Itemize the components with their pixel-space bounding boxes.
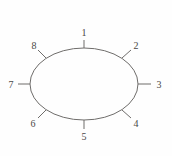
- node-label-4: 4: [134, 119, 139, 129]
- tick-mark-6: [38, 110, 46, 118]
- node-label-3: 3: [157, 80, 162, 90]
- figure-canvas: 1 2 3 4 5 6 7 8: [0, 0, 172, 156]
- tick-mark-2: [122, 50, 131, 58]
- node-label-5: 5: [82, 132, 87, 142]
- node-label-1: 1: [82, 28, 87, 38]
- node-label-8: 8: [32, 41, 37, 51]
- tick-mark-8: [38, 50, 46, 58]
- ellipse-outline: [30, 48, 138, 120]
- node-label-2: 2: [134, 41, 139, 51]
- node-label-6: 6: [31, 119, 36, 129]
- node-label-7: 7: [9, 80, 14, 90]
- tick-mark-4: [122, 110, 131, 118]
